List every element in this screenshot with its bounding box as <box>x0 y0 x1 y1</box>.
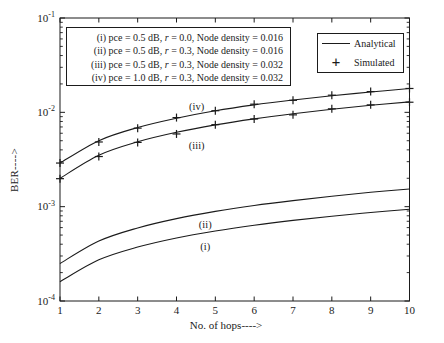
curve-label-i: (i) <box>200 241 210 253</box>
y-axis-label: BER----> <box>8 148 20 192</box>
x-tick-label: 10 <box>404 304 416 316</box>
annotation-line-ii: (ii) pce = 0.5 dB, r = 0.3, Node density… <box>69 44 283 57</box>
curve-ii-analytical <box>60 189 410 263</box>
plus-marker-icon: + <box>318 57 354 67</box>
legend-label-simulated: Simulated <box>354 57 395 68</box>
x-tick-label: 7 <box>290 304 296 316</box>
annotation-text: = 0.3, Node density = 0.016 <box>169 45 283 56</box>
curve-i-analytical <box>60 209 410 282</box>
line-sample-icon <box>318 43 354 44</box>
annotation-text: (iv) pce = 1.0 dB, <box>92 72 165 83</box>
annotation-text: = 0.0, Node density = 0.016 <box>169 32 283 43</box>
legend-entry-simulated: + Simulated <box>318 54 403 71</box>
x-tick-label: 2 <box>96 304 102 316</box>
annotation-text: = 0.3, Node density = 0.032 <box>169 59 283 70</box>
annotation-line-iii: (iii) pce = 0.5 dB, r = 0.3, Node densit… <box>69 58 283 71</box>
curve-label-ii: (ii) <box>199 219 212 231</box>
x-tick-label: 9 <box>368 304 374 316</box>
y-tick-label: 10-2 <box>37 104 55 118</box>
x-tick-label: 6 <box>251 304 257 316</box>
annotation-text: (iii) pce = 0.5 dB, <box>91 59 165 70</box>
x-tick-label: 1 <box>57 304 63 316</box>
y-tick-label: 10-1 <box>37 10 55 24</box>
x-tick-label: 3 <box>135 304 141 316</box>
annotation-text: (i) pce = 0.5 dB, <box>97 32 165 43</box>
y-tick-label: 10-3 <box>37 199 55 213</box>
x-tick-label: 5 <box>213 304 219 316</box>
annotation-box: (i) pce = 0.5 dB, r = 0.0, Node density … <box>66 27 291 86</box>
y-tick-label: 10-4 <box>37 293 55 307</box>
annotation-text: = 0.3, Node density = 0.032 <box>169 72 283 83</box>
x-axis-label: No. of hops----> <box>51 319 401 331</box>
annotation-line-iv: (iv) pce = 1.0 dB, r = 0.3, Node density… <box>69 71 283 84</box>
curve-iv-analytical <box>60 88 410 163</box>
legend: Analytical + Simulated <box>317 33 404 73</box>
annotation-text: (ii) pce = 0.5 dB, <box>94 45 165 56</box>
x-tick-label: 8 <box>329 304 335 316</box>
curve-label-iii: (iii) <box>189 140 205 152</box>
legend-entry-analytical: Analytical <box>318 35 403 52</box>
curve-label-iv: (iv) <box>189 101 205 113</box>
annotation-line-i: (i) pce = 0.5 dB, r = 0.0, Node density … <box>69 31 283 44</box>
curve-iii-analytical <box>60 102 410 178</box>
legend-label-analytical: Analytical <box>354 38 396 49</box>
figure: 1234567891010-110-210-310-4(iv)(iii)(ii)… <box>0 0 444 343</box>
x-tick-label: 4 <box>174 304 180 316</box>
